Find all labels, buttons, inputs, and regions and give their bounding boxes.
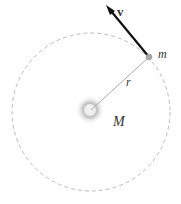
mass-label: m: [158, 48, 167, 60]
central-mass-label: M: [113, 115, 125, 129]
orbit-diagram: [0, 0, 181, 204]
radius-line: [91, 57, 149, 110]
velocity-label: v: [117, 5, 124, 18]
central-mass: [75, 95, 105, 125]
orbiting-mass: [146, 54, 152, 60]
radius-label: r: [126, 76, 131, 88]
